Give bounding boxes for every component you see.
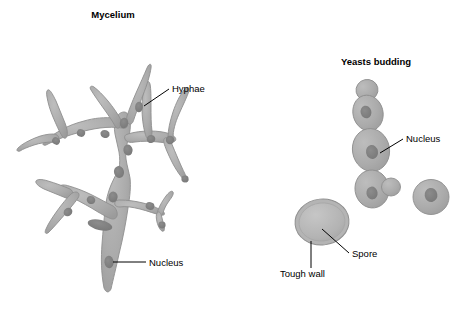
hyphae-label-group: Hyphae [144,83,205,106]
mycelium-illustration: Mycelium Hyphae Nucleus [17,9,205,292]
hyphae-label: Hyphae [172,83,205,94]
fungi-diagram-canvas: Mycelium Hyphae Nucleus [0,0,469,329]
hypha-tip-lower-left-upper [36,180,73,199]
mycelium-nucleus-label: Nucleus [149,257,184,268]
yeasts-budding-illustration: Yeasts budding Nucleus Spore Tough wall [280,56,449,279]
spore-group [293,196,352,247]
nucleus-oval [158,222,165,229]
diagram-page: Mycelium Hyphae Nucleus [0,0,469,329]
nucleus-oval [166,136,174,144]
yeast-chain-group [349,77,400,210]
yeast-cell-isolated-group [413,180,449,215]
spore-label: Spore [352,248,377,259]
nucleus-oval [181,176,188,183]
yeast-bud-lower-right [382,178,401,196]
tough-wall-label: Tough wall [280,268,325,279]
mycelium-title: Mycelium [91,9,134,20]
mycelium-nucleus-label-group: Nucleus [113,257,184,268]
hypha-tip-upper-right-downward [164,138,188,182]
yeasts-budding-title: Yeasts budding [341,56,411,67]
yeast-nucleus-label: Nucleus [406,133,441,144]
hypha-tip-upper-left-a [47,90,68,138]
tough-wall-label-group: Tough wall [280,241,325,279]
hypha-tip-upper-right-diagonal [167,87,189,142]
hypha-tip-lower-left-lower [45,192,79,233]
nucleus-oval [99,129,110,139]
